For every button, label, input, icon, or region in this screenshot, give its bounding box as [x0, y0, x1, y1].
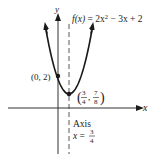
function-label: f(x) = 2x2 − 3x + 2	[72, 13, 143, 26]
y-intercept-label: (0, 2)	[31, 72, 51, 82]
axis-title: Axis	[73, 119, 91, 129]
y-intercept-point	[56, 74, 60, 78]
svg-text:): )	[100, 90, 105, 106]
vertex-label: ( 3 4 , 7 8 )	[77, 89, 105, 106]
vertex-point	[67, 92, 71, 96]
svg-text:,: ,	[88, 92, 90, 102]
svg-text:3: 3	[82, 89, 86, 97]
svg-text:3: 3	[90, 128, 94, 136]
svg-text:4: 4	[90, 137, 94, 145]
svg-text:7: 7	[94, 89, 98, 97]
axis-equation: x = 3 4	[72, 128, 95, 145]
y-axis-label: y	[54, 4, 59, 14]
svg-text:4: 4	[82, 98, 86, 106]
x-axis-label: x	[142, 102, 148, 113]
parabola-graph: x y f(x) = 2x2 − 3x + 2 (0, 2) ( 3 4 , 7…	[0, 0, 153, 154]
svg-text:x =: x =	[72, 131, 85, 141]
svg-text:8: 8	[94, 98, 98, 106]
